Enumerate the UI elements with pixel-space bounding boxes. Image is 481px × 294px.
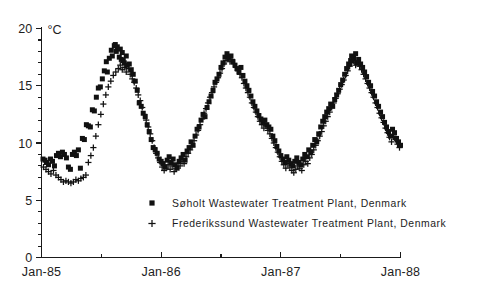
data-point-square	[68, 167, 73, 172]
x-tick-label: Jan-85	[22, 265, 61, 279]
data-point-square	[109, 48, 114, 53]
data-point-plus	[103, 92, 109, 98]
legend-label: Søholt Wastewater Treatment Plant, Denma…	[172, 198, 407, 209]
y-tick-label: 15	[18, 79, 32, 93]
legend-item-1: Frederikssund Wastewater Treatment Plant…	[148, 218, 446, 229]
legend-item-0: Søholt Wastewater Treatment Plant, Denma…	[149, 198, 407, 209]
data-point-square	[171, 157, 176, 162]
data-point-square	[94, 95, 99, 100]
y-axis-unit-label: °C	[48, 23, 62, 37]
chart-legend: Søholt Wastewater Treatment Plant, Denma…	[148, 198, 446, 230]
data-point-square	[98, 84, 103, 89]
legend-label: Frederikssund Wastewater Treatment Plant…	[172, 218, 447, 229]
legend-marker-square	[149, 200, 154, 205]
x-tick-label: Jan-87	[261, 265, 300, 279]
data-series	[40, 42, 403, 186]
x-tick-label: Jan-88	[381, 265, 420, 279]
data-point-square	[76, 147, 81, 152]
data-point-square	[127, 62, 132, 67]
data-point-square	[294, 155, 299, 160]
data-point-square	[392, 130, 397, 135]
data-point-square	[88, 124, 93, 129]
data-point-plus	[90, 144, 96, 150]
data-point-square	[92, 108, 97, 113]
data-point-square	[124, 53, 129, 58]
data-point-square	[353, 51, 358, 56]
data-point-plus	[93, 133, 99, 139]
data-point-square	[110, 53, 115, 58]
data-point-plus	[100, 101, 106, 107]
y-tick-label: 0	[25, 251, 32, 265]
data-point-plus	[85, 159, 91, 165]
data-point-square	[74, 153, 79, 158]
y-tick-label: 5	[25, 194, 32, 208]
series-soholt	[41, 42, 404, 172]
data-point-square	[105, 70, 110, 75]
data-point-square	[52, 163, 57, 168]
data-point-plus	[88, 153, 94, 159]
x-tick-label: Jan-86	[141, 265, 180, 279]
data-point-square	[78, 166, 83, 171]
data-point-plus	[95, 122, 101, 128]
data-point-plus	[105, 84, 111, 90]
data-point-square	[82, 137, 87, 142]
data-point-square	[50, 159, 55, 164]
data-point-square	[238, 65, 243, 70]
data-point-plus	[98, 111, 104, 117]
temperature-scatter-chart: 05101520Jan-85Jan-86Jan-87Jan-88°C Søhol…	[0, 0, 481, 294]
data-point-square	[100, 76, 105, 81]
chart-canvas: 05101520Jan-85Jan-86Jan-87Jan-88°C Søhol…	[0, 0, 481, 294]
data-point-plus	[108, 78, 114, 84]
y-tick-label: 10	[18, 137, 32, 151]
data-point-square	[64, 155, 69, 160]
y-tick-label: 20	[18, 22, 32, 36]
data-point-square	[262, 118, 267, 123]
